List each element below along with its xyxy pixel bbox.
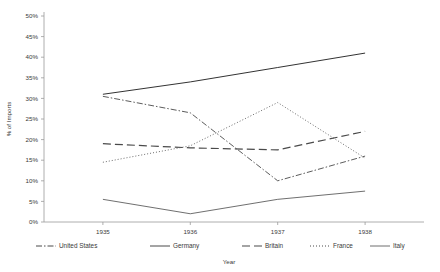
series-line-germany	[103, 53, 365, 94]
x-axis-title: Year	[223, 258, 236, 265]
x-tick-label: 1938	[358, 228, 372, 235]
series-line-france	[103, 103, 365, 163]
legend-label-united-states[interactable]: United States	[59, 242, 97, 249]
y-tick-label: 45%	[26, 33, 39, 40]
x-tick-label: 1936	[183, 228, 197, 235]
legend-label-italy[interactable]: Italy	[393, 242, 406, 250]
series-line-united-states	[103, 96, 365, 180]
x-tick-label: 1937	[271, 228, 285, 235]
y-tick-label: 15%	[26, 156, 39, 163]
legend-label-britain[interactable]: Britain	[265, 242, 284, 249]
series-line-britain	[103, 131, 365, 150]
y-tick-label: 0%	[29, 218, 38, 225]
legend-label-france[interactable]: France	[333, 242, 353, 249]
y-tick-label: 10%	[26, 177, 39, 184]
y-tick-label: 35%	[26, 74, 39, 81]
x-tick-label: 1935	[96, 228, 110, 235]
legend-label-germany[interactable]: Germany	[173, 242, 200, 250]
y-tick-label: 5%	[29, 198, 38, 205]
y-tick-label: 25%	[26, 115, 39, 122]
line-chart: 0%5%10%15%20%25%30%35%40%45%50%193519361…	[0, 0, 440, 272]
y-axis-title: % of Imports	[5, 102, 12, 137]
series-line-italy	[103, 191, 365, 214]
y-tick-label: 20%	[26, 136, 39, 143]
y-tick-label: 40%	[26, 53, 39, 60]
y-tick-label: 50%	[26, 12, 39, 19]
y-tick-label: 30%	[26, 95, 39, 102]
chart-canvas: 0%5%10%15%20%25%30%35%40%45%50%193519361…	[0, 0, 440, 272]
